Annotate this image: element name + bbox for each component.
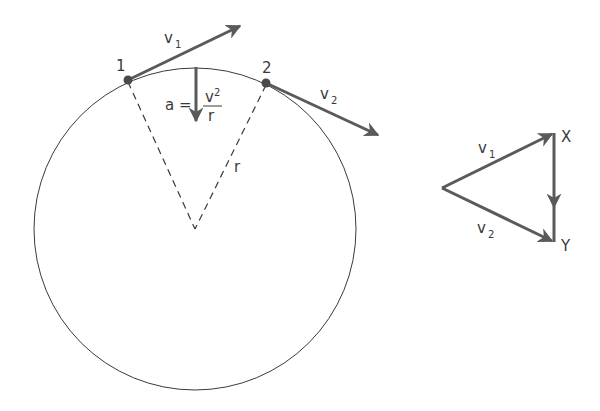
svg-text:2: 2 [331,95,337,106]
svg-text:v: v [477,219,486,237]
circular-motion-diagram: 1 2 v 1 v 2 a = v 2 r r v 1 v 2 X Y [0,0,600,411]
svg-text:2: 2 [214,87,220,98]
radius-label: r [234,158,241,176]
velocity-2-label: v 2 [320,85,337,106]
svg-text:a =: a = [165,96,192,114]
velocity-1-label: v 1 [164,29,181,50]
point-2-label: 2 [262,59,272,77]
triangle-velocity-2-label: v 2 [477,219,494,240]
svg-text:v: v [164,29,173,47]
triangle-velocity-2 [442,188,552,241]
acceleration-formula: a = v 2 r [165,87,222,125]
svg-text:r: r [208,107,215,125]
point-2-dot [262,79,271,88]
point-1-label: 1 [116,57,126,75]
vector-triangle: v 1 v 2 X Y [442,128,571,255]
point-1-dot [124,76,133,85]
vertex-x-label: X [561,128,571,146]
svg-text:v: v [478,139,487,157]
svg-text:1: 1 [175,39,181,50]
svg-text:2: 2 [488,229,494,240]
svg-text:1: 1 [489,149,495,160]
svg-text:v: v [320,85,329,103]
svg-text:v: v [205,88,214,106]
vertex-y-label: Y [560,237,571,255]
radius-line-2 [195,85,266,229]
velocity-vector-1 [128,26,240,80]
triangle-velocity-1-label: v 1 [478,139,495,160]
triangle-velocity-1 [442,134,552,188]
